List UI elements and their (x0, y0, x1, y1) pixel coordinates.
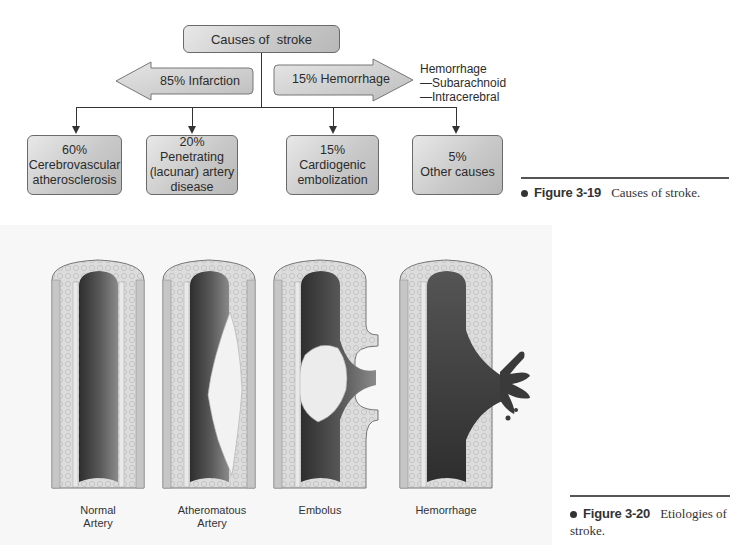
caption-text-line2: stroke. (570, 522, 727, 539)
label-hemorrhage: Hemorrhage (396, 504, 496, 517)
label-line: Atheromatous (162, 504, 262, 517)
atheromatous-artery-illustration (163, 260, 255, 488)
label-atheromatous-artery: Atheromatous Artery (162, 504, 262, 530)
label-line: Artery (162, 517, 262, 530)
label-line: Hemorrhage (396, 504, 496, 517)
label-line: Normal (48, 504, 148, 517)
figure-number: Figure 3-20 (583, 506, 650, 521)
label-normal-artery: Normal Artery (48, 504, 148, 530)
embolus-artery-illustration (274, 260, 378, 488)
caption-figure-3-20: Figure 3-20Etiologies of stroke. (570, 505, 727, 539)
hemorrhage-artery-illustration (400, 260, 530, 488)
artery-illustrations (0, 0, 754, 554)
bullet-icon (570, 511, 577, 518)
caption-rule-3-20 (570, 495, 730, 497)
label-line: Embolus (270, 504, 370, 517)
label-line: Artery (48, 517, 148, 530)
label-embolus: Embolus (270, 504, 370, 517)
normal-artery-illustration (52, 260, 144, 488)
caption-text: Etiologies of (660, 506, 727, 521)
